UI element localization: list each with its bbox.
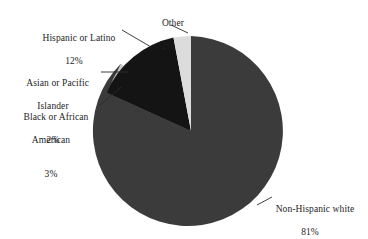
slice-label-text-black-line1: Black or African	[23, 112, 88, 122]
slice-value-black-or-african-american: 3%	[2, 169, 100, 181]
slice-label-black-or-african-american: Black or African American 3%	[2, 100, 100, 204]
slice-label-text-asian-line1: Asian or Pacific	[26, 78, 89, 88]
slice-label-non-hispanic-white: Non-Hispanic white 81%	[258, 192, 362, 238]
pie-chart: Hispanic or Latino 12% Asian or Pacific …	[0, 0, 368, 238]
slice-label-text-non-hispanic-white: Non-Hispanic white	[276, 204, 355, 214]
slice-label-other: Other 2%	[138, 6, 198, 75]
slice-label-text-other: Other	[162, 18, 184, 28]
slice-label-text-black-line2: American	[2, 135, 100, 147]
slice-label-text-hispanic-or-latino: Hispanic or Latino	[42, 33, 115, 43]
slice-value-other: 2%	[138, 41, 198, 53]
slice-value-non-hispanic-white: 81%	[258, 227, 362, 239]
